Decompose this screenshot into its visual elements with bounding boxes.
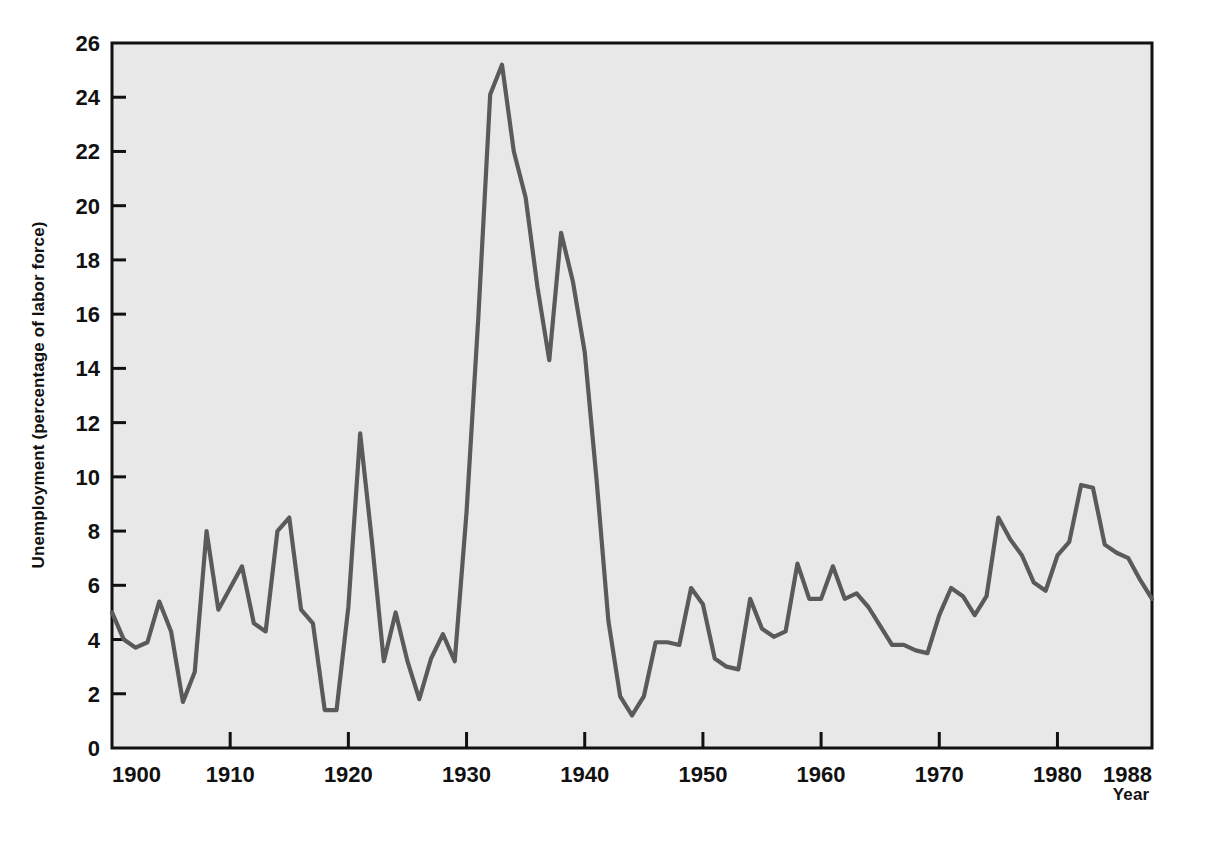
- y-tick-label: 8: [88, 519, 100, 544]
- x-tick-label: 1980: [1033, 762, 1082, 787]
- y-tick-label: 22: [76, 139, 100, 164]
- x-tick-label: 1930: [442, 762, 491, 787]
- y-tick-label: 26: [76, 31, 100, 56]
- x-axis-tick-labels: 1900191019201930194019501960197019801988: [112, 762, 1152, 787]
- y-tick-label: 24: [76, 85, 101, 110]
- x-tick-label: 1960: [797, 762, 846, 787]
- x-tick-label: 1900: [112, 762, 161, 787]
- x-axis-title: Year: [1113, 785, 1150, 804]
- y-axis-title: Unemployment (percentage of labor force): [29, 222, 48, 569]
- y-tick-label: 0: [88, 736, 100, 761]
- y-tick-label: 4: [88, 628, 101, 653]
- y-tick-label: 2: [88, 682, 100, 707]
- y-tick-label: 6: [88, 573, 100, 598]
- y-tick-label: 18: [76, 248, 100, 273]
- y-tick-label: 16: [76, 302, 100, 327]
- y-axis-tick-labels: 02468101214161820222426: [76, 31, 101, 761]
- unemployment-chart-figure: 02468101214161820222426 1900191019201930…: [0, 0, 1206, 860]
- x-tick-label: 1940: [560, 762, 609, 787]
- x-tick-label: 1970: [915, 762, 964, 787]
- y-tick-label: 14: [76, 356, 101, 381]
- y-tick-label: 12: [76, 411, 100, 436]
- x-tick-label: 1988: [1103, 762, 1152, 787]
- y-tick-label: 10: [76, 465, 100, 490]
- x-tick-label: 1950: [678, 762, 727, 787]
- x-tick-label: 1910: [206, 762, 255, 787]
- x-tick-label: 1920: [324, 762, 373, 787]
- chart-canvas: 02468101214161820222426 1900191019201930…: [0, 0, 1206, 860]
- y-tick-label: 20: [76, 194, 100, 219]
- plot-area-background: [112, 43, 1152, 748]
